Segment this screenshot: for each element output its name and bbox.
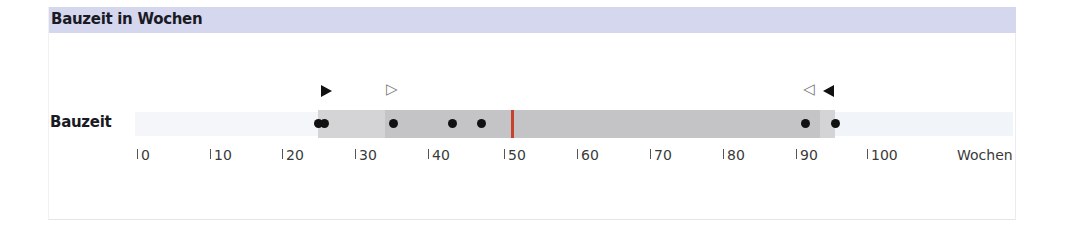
data-point — [831, 119, 840, 128]
q3-marker-open-triangle-icon: ◁ — [803, 83, 815, 95]
data-point — [477, 119, 486, 128]
q1-marker-open-triangle-icon: ▷ — [386, 83, 398, 95]
row-label: Bauzeit — [50, 113, 111, 131]
median-line — [511, 110, 514, 138]
axis-tick: 20 — [282, 147, 304, 163]
min-marker-filled-triangle-icon — [321, 85, 332, 97]
axis-tick: 50 — [504, 147, 526, 163]
axis-tick: 0 — [137, 147, 150, 163]
axis-tick: 70 — [650, 147, 672, 163]
data-point — [448, 119, 457, 128]
axis-tick: 10 — [210, 147, 232, 163]
axis-tick: 100 — [867, 147, 898, 163]
axis-tick: 60 — [577, 147, 599, 163]
axis-tick: 90 — [796, 147, 818, 163]
axis-tick: 40 — [428, 147, 450, 163]
axis-unit-label: Wochen — [957, 147, 1013, 163]
data-point — [320, 119, 329, 128]
chart-header: Bauzeit in Wochen — [49, 7, 1016, 33]
axis-tick: 80 — [723, 147, 745, 163]
data-point — [801, 119, 810, 128]
background-band-right — [835, 112, 1013, 136]
axis-tick: 30 — [355, 147, 377, 163]
data-point — [389, 119, 398, 128]
chart-title: Bauzeit in Wochen — [51, 10, 202, 28]
max-marker-filled-triangle-icon — [823, 85, 834, 97]
background-band-left — [135, 112, 318, 136]
